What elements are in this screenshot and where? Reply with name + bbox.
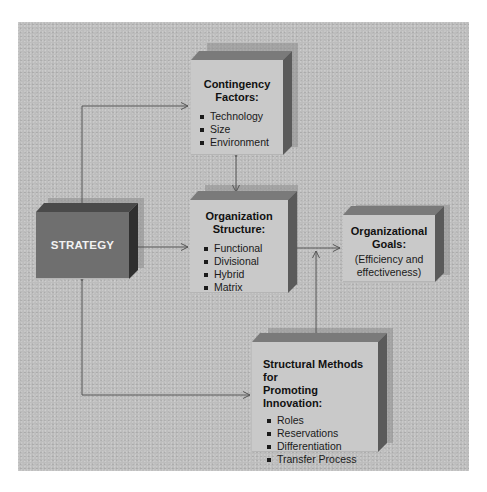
strategy-box-top-bevel (36, 203, 138, 212)
structure-box-top-bevel (190, 191, 297, 200)
innovation-box-side-bevel (378, 333, 387, 452)
contingency-box-top-bevel (191, 51, 292, 60)
structure-title: Organization Structure: (205, 210, 272, 236)
contingency-factors-box: Contingency Factors: Technology Size Env… (191, 60, 283, 155)
organizational-goals-box: Organizational Goals: (Efficiency and ef… (343, 215, 435, 282)
organization-structure-box: Organization Structure: Functional Divis… (190, 200, 288, 293)
contingency-box-side-bevel (283, 51, 292, 155)
innovation-title: Structural Methods for Promoting Innovat… (263, 358, 378, 410)
list-item: Roles (267, 414, 357, 427)
list-item: Reservations (267, 427, 357, 440)
structure-title-line1: Organization (205, 210, 272, 223)
list-item: Divisional (204, 255, 262, 268)
innovation-box-top-bevel (252, 333, 387, 342)
list-item: Environment (200, 136, 269, 149)
strategy-box: STRATEGY (36, 212, 129, 279)
bullet-icon (200, 115, 204, 119)
bullet-icon (267, 458, 271, 462)
goals-description: (Efficiency and effectiveness) (355, 253, 424, 279)
goals-box-side-bevel (435, 206, 444, 282)
goals-title-line2: Goals: (351, 238, 427, 251)
contingency-title-line1: Contingency (204, 78, 271, 91)
list-item: Hybrid (204, 268, 262, 281)
bullet-icon (267, 419, 271, 423)
goals-title: Organizational Goals: (351, 225, 427, 251)
structure-list: Functional Divisional Hybrid Matrix (204, 242, 262, 294)
list-item: Functional (204, 242, 262, 255)
bullet-icon (204, 247, 208, 251)
innovation-title-line1: Structural Methods for (263, 358, 378, 384)
strategy-label: STRATEGY (51, 239, 114, 251)
bullet-icon (204, 273, 208, 277)
bullet-icon (204, 260, 208, 264)
structural-methods-innovation-box: Structural Methods for Promoting Innovat… (252, 342, 378, 452)
structure-box-side-bevel (288, 191, 297, 293)
contingency-title-line2: Factors: (204, 91, 271, 104)
bullet-icon (204, 286, 208, 290)
bullet-icon (200, 128, 204, 132)
goals-title-line1: Organizational (351, 225, 427, 238)
list-item: Transfer Process (267, 453, 357, 466)
innovation-list: Roles Reservations Differentiation Trans… (267, 414, 357, 466)
innovation-title-line2: Promoting Innovation: (263, 384, 378, 410)
structure-title-line2: Structure: (205, 223, 272, 236)
goals-box-top-bevel (343, 206, 444, 215)
list-item: Differentiation (267, 440, 357, 453)
list-item: Technology (200, 110, 269, 123)
strategy-box-side-bevel (129, 203, 138, 279)
bullet-icon (200, 141, 204, 145)
bullet-icon (267, 445, 271, 449)
contingency-title: Contingency Factors: (204, 78, 271, 104)
list-item: Matrix (204, 281, 262, 294)
list-item: Size (200, 123, 269, 136)
contingency-list: Technology Size Environment (200, 110, 269, 149)
bullet-icon (267, 432, 271, 436)
